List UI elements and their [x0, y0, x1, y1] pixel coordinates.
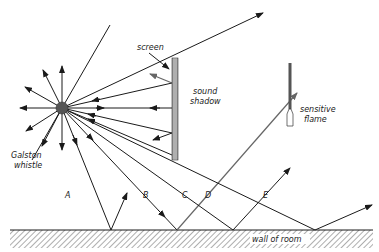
ray-to-screen-1: [62, 83, 172, 108]
ray-label-d: D: [205, 191, 211, 200]
wall-hatching: [10, 230, 373, 248]
galston-whistle-label-1: Galston: [11, 151, 42, 160]
ray-e-incident: [62, 108, 315, 230]
reflected-from-screen-down: [153, 133, 172, 140]
ray-label-c: C: [182, 191, 188, 200]
sound-reflection-diagram: wall of room screen: [0, 0, 379, 252]
sensitive-flame-label-1: sensitive: [300, 105, 336, 114]
wall-label: wall of room: [252, 235, 302, 244]
screen-body: [172, 58, 178, 160]
ray-label-b: B: [143, 191, 149, 200]
flame-nozzle: [287, 109, 293, 126]
sound-shadow-label-2: shadow: [190, 97, 221, 106]
ray-b-arrow: [88, 135, 93, 140]
ray-c-reflected: [233, 168, 290, 230]
ray-up-steep: [62, 25, 110, 108]
galston-whistle-label-2: whistle: [14, 161, 42, 170]
sensitive-flame: [287, 63, 293, 126]
ray-c-incident: [62, 108, 233, 230]
screen-label: screen: [137, 43, 164, 52]
sensitive-flame-label-2: flame: [304, 115, 327, 124]
ray-b-arrow-2: [158, 210, 165, 217]
ray-label-a: A: [64, 191, 70, 200]
screen: [172, 58, 178, 160]
sound-shadow-label-1: sound: [193, 87, 218, 96]
ray-a-arrow: [73, 135, 77, 145]
radial-arrows: [20, 66, 62, 160]
flame-column: [289, 63, 292, 109]
ray-over-screen: [62, 13, 263, 108]
screen-label-pointer: [149, 53, 169, 69]
wall-of-room: wall of room: [10, 230, 373, 248]
galston-whistle-source: [56, 102, 68, 114]
arrow-left-down: [26, 108, 62, 131]
ray-b-reflected-to-flame: [177, 93, 297, 230]
ray-e-reflected: [315, 205, 372, 230]
reflected-from-screen-up: [150, 74, 172, 83]
ray-a-reflected: [111, 193, 127, 230]
ray-to-screen-3: [62, 108, 172, 133]
